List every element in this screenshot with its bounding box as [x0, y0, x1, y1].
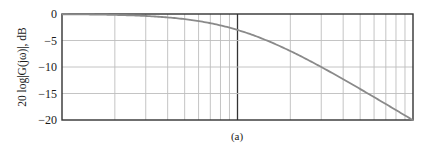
- y-tick-label: 0: [51, 7, 57, 21]
- bode-magnitude-chart: 0−5−10−15−20: [0, 0, 431, 151]
- y-tick-label: −10: [38, 60, 57, 74]
- y-tick-label: −15: [38, 87, 57, 101]
- y-tick-label: −20: [38, 113, 57, 127]
- y-tick-label: −5: [44, 34, 57, 48]
- y-axis-label: 20 log|G(jω)|, dB: [16, 27, 28, 107]
- y-tick-labels: 0−5−10−15−20: [38, 7, 57, 127]
- figure-caption: (a): [231, 130, 243, 142]
